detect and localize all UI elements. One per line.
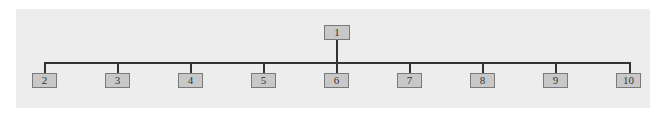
node-child: 6 [324, 73, 349, 88]
connector-child-8 [482, 62, 484, 73]
node-child: 2 [32, 73, 57, 88]
connector-root [336, 40, 338, 73]
connector-child-2 [44, 62, 46, 73]
node-child: 5 [251, 73, 276, 88]
connector-child-9 [555, 62, 557, 73]
node-child: 4 [178, 73, 203, 88]
node-root: 1 [324, 25, 350, 40]
diagram-panel [16, 9, 650, 108]
node-child: 8 [470, 73, 495, 88]
connector-child-10 [629, 62, 631, 73]
node-child: 3 [105, 73, 130, 88]
connector-bus [44, 62, 631, 64]
node-child: 10 [616, 73, 641, 88]
node-child: 7 [397, 73, 422, 88]
connector-child-5 [263, 62, 265, 73]
connector-child-3 [117, 62, 119, 73]
node-child: 9 [543, 73, 568, 88]
connector-child-7 [409, 62, 411, 73]
connector-child-4 [190, 62, 192, 73]
